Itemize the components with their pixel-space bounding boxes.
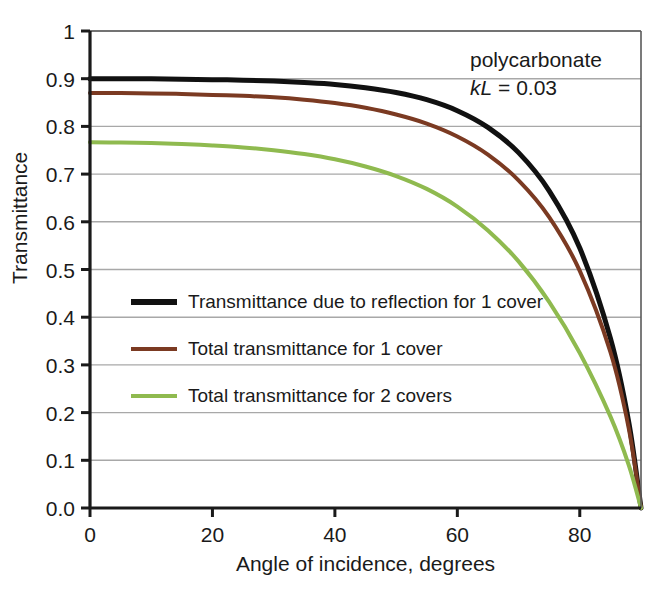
legend-entry-0: Transmittance due to reflection for 1 co… — [131, 291, 543, 313]
legend-swatch-0 — [131, 297, 177, 307]
y-tick-label: 0.9 — [0, 68, 75, 89]
legend-swatch-1 — [131, 344, 177, 354]
annotation-kl-value: 0.03 — [516, 76, 557, 99]
legend-label-1: Total transmittance for 1 cover — [188, 338, 443, 360]
series-line-2 — [90, 142, 641, 508]
x-tick-label: 0 — [84, 524, 96, 545]
legend-label-0: Transmittance due to reflection for 1 co… — [188, 291, 543, 313]
x-axis-title: Angle of incidence, degrees — [90, 552, 641, 576]
y-tick-label: 0.8 — [0, 116, 75, 137]
chart-figure: 0.00.10.20.30.40.50.60.70.80.91 02040608… — [0, 0, 668, 596]
x-tick-label: 60 — [446, 524, 469, 545]
legend-entry-2: Total transmittance for 2 covers — [131, 385, 452, 407]
x-tick-label: 40 — [323, 524, 346, 545]
annotation-kl: kL = 0.03 — [470, 76, 557, 100]
y-tick-label: 1 — [0, 21, 75, 42]
y-tick-label: 0.1 — [0, 450, 75, 471]
annotation-kl-symbol: kL — [470, 76, 492, 99]
legend-entry-1: Total transmittance for 1 cover — [131, 338, 443, 360]
y-axis-title: Transmittance — [8, 152, 32, 284]
legend-swatch-2 — [131, 391, 177, 401]
x-tick-label: 20 — [201, 524, 224, 545]
x-tick-label: 80 — [568, 524, 591, 545]
annotation-material: polycarbonate — [470, 48, 602, 72]
y-tick-label: 0.3 — [0, 354, 75, 375]
y-tick-label: 0.2 — [0, 402, 75, 423]
y-tick-label: 0.0 — [0, 498, 75, 519]
annotation-kl-operator: = — [492, 76, 516, 99]
y-tick-label: 0.4 — [0, 307, 75, 328]
legend-label-2: Total transmittance for 2 covers — [188, 385, 452, 407]
